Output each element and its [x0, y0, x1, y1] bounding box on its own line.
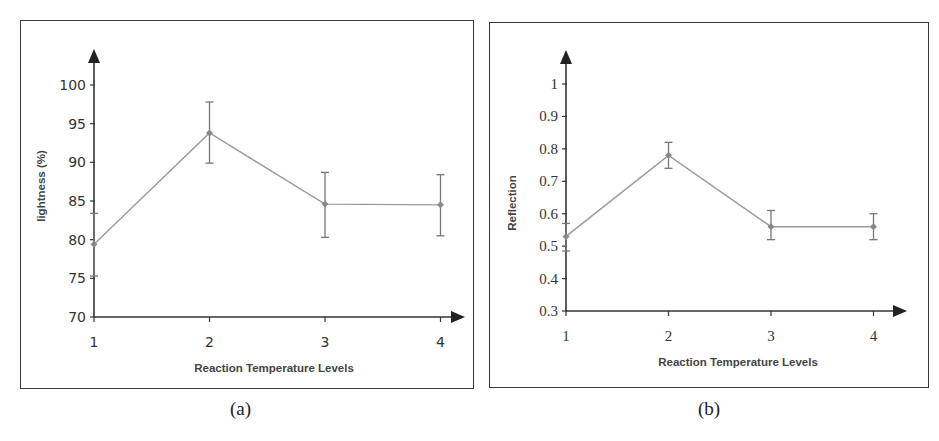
- reflection-chart: 0.30.40.50.60.70.80.911234Reaction Tempe…: [490, 23, 930, 389]
- y-tick-label: 100: [59, 77, 86, 93]
- y-tick-label: 1: [551, 76, 559, 92]
- x-tick-label: 1: [562, 328, 570, 344]
- y-tick-label: 0.3: [539, 303, 558, 319]
- y-tick-label: 0.6: [539, 206, 558, 222]
- chart-panel-b: 0.30.40.50.60.70.80.911234Reaction Tempe…: [489, 22, 929, 388]
- x-axis-arrow-icon: [893, 305, 907, 317]
- y-tick-label: 80: [68, 232, 86, 248]
- x-tick-label: 3: [767, 328, 775, 344]
- x-tick-label: 2: [665, 328, 673, 344]
- caption-b: (b): [698, 398, 720, 420]
- data-point-marker: [322, 201, 329, 208]
- y-tick-label: 75: [68, 270, 86, 286]
- y-tick-label: 0.8: [539, 141, 558, 157]
- y-tick-label: 0.5: [539, 238, 558, 254]
- y-tick-label: 70: [68, 309, 86, 325]
- data-point-marker: [437, 201, 444, 208]
- data-line: [566, 155, 874, 236]
- caption-a: (a): [230, 398, 251, 420]
- y-axis-title: Reflection: [506, 175, 518, 231]
- x-axis-arrow-icon: [451, 311, 465, 323]
- x-tick-label: 1: [90, 334, 99, 350]
- y-tick-label: 90: [68, 154, 86, 170]
- y-axis-arrow-icon: [560, 50, 572, 64]
- y-tick-label: 0.4: [539, 271, 558, 287]
- y-tick-label: 0.9: [539, 108, 558, 124]
- y-tick-label: 0.7: [539, 173, 558, 189]
- x-tick-label: 2: [205, 334, 214, 350]
- y-tick-label: 95: [68, 116, 86, 132]
- x-tick-label: 3: [321, 334, 330, 350]
- x-tick-label: 4: [870, 328, 878, 344]
- y-axis-arrow-icon: [88, 49, 100, 63]
- lightness-chart: 7075808590951001234Reaction Temperature …: [21, 21, 475, 390]
- x-axis-title: Reaction Temperature Levels: [194, 362, 354, 374]
- data-point-marker: [870, 223, 877, 230]
- chart-panel-a: 7075808590951001234Reaction Temperature …: [20, 20, 474, 389]
- y-axis-title: lightness (%): [35, 150, 47, 222]
- x-axis-title: Reaction Temperature Levels: [658, 356, 818, 368]
- x-tick-label: 4: [436, 334, 445, 350]
- data-line: [94, 133, 441, 244]
- y-tick-label: 85: [68, 193, 86, 209]
